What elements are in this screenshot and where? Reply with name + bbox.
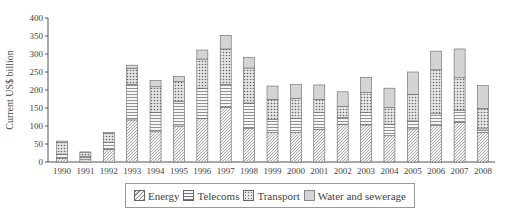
bar-segment-water-and-sewerage <box>80 152 91 153</box>
bar-segment-telecoms <box>103 142 114 149</box>
x-tick-label: 2005 <box>404 166 423 176</box>
water-swatch-icon <box>304 190 315 201</box>
bar-segment-transport <box>431 70 442 114</box>
bar-segment-energy <box>267 132 278 162</box>
legend-label: Telecoms <box>197 190 239 202</box>
bar-segment-water-and-sewerage <box>197 50 208 59</box>
bar-2000 <box>290 85 301 162</box>
bar-1997 <box>220 35 231 162</box>
bar-segment-energy <box>454 122 465 162</box>
y-tick-label: 250 <box>30 67 44 77</box>
bar-segment-energy <box>173 126 184 162</box>
bar-segment-water-and-sewerage <box>290 85 301 99</box>
bar-segment-transport <box>361 93 372 113</box>
bar-segment-water-and-sewerage <box>384 88 395 107</box>
bar-segment-water-and-sewerage <box>337 92 348 107</box>
bar-segment-telecoms <box>80 156 91 159</box>
bar-segment-transport <box>337 107 348 118</box>
bar-segment-water-and-sewerage <box>220 35 231 49</box>
x-tick-label: 2001 <box>310 166 328 176</box>
x-tick-label: 2003 <box>357 166 376 176</box>
bar-segment-energy <box>478 132 489 162</box>
bar-segment-telecoms <box>361 113 372 125</box>
bar-2006 <box>431 51 442 162</box>
bar-1998 <box>244 57 255 162</box>
y-tick-label: 150 <box>30 103 44 113</box>
bar-1990 <box>57 141 68 162</box>
bar-segment-transport <box>127 68 138 84</box>
bar-1995 <box>173 77 184 162</box>
x-tick-label: 2004 <box>380 166 399 176</box>
y-tick-label: 200 <box>30 85 44 95</box>
bar-segment-water-and-sewerage <box>127 65 138 68</box>
bar-segment-water-and-sewerage <box>431 51 442 70</box>
legend-label: Water and sewerage <box>318 190 406 202</box>
bar-segment-telecoms <box>337 118 348 124</box>
bar-2002 <box>337 92 348 162</box>
bar-segment-telecoms <box>197 88 208 118</box>
bar-segment-telecoms <box>173 102 184 126</box>
axes: 0501001502002503003504001990199119921993… <box>30 13 496 176</box>
bar-2001 <box>314 85 325 162</box>
bar-segment-transport <box>314 99 325 112</box>
bar-segment-energy <box>220 107 231 162</box>
x-tick-label: 2007 <box>451 166 470 176</box>
bar-segment-energy <box>80 159 91 162</box>
bar-segment-transport <box>103 134 114 143</box>
x-tick-label: 2000 <box>287 166 306 176</box>
bar-segment-telecoms <box>384 124 395 136</box>
bar-segment-transport <box>80 153 91 157</box>
transport-swatch-icon <box>243 190 254 201</box>
bar-segment-telecoms <box>478 129 489 133</box>
y-tick-label: 350 <box>30 31 44 41</box>
bar-segment-transport <box>197 59 208 88</box>
bar-segment-water-and-sewerage <box>314 85 325 99</box>
bar-segment-transport <box>384 108 395 125</box>
bar-segment-energy <box>57 158 68 162</box>
y-tick-label: 400 <box>30 13 44 23</box>
bar-segment-energy <box>197 118 208 162</box>
x-tick-label: 2002 <box>334 166 352 176</box>
bar-segment-telecoms <box>314 113 325 130</box>
y-tick-label: 50 <box>34 139 44 149</box>
bar-segment-transport <box>478 108 489 129</box>
bar-segment-transport <box>57 143 68 155</box>
bar-segment-water-and-sewerage <box>173 77 184 82</box>
bar-1996 <box>197 50 208 162</box>
legend-label: Energy <box>148 190 180 202</box>
bar-2004 <box>384 88 395 162</box>
bar-2005 <box>407 72 418 162</box>
bar-segment-telecoms <box>57 154 68 158</box>
bar-segment-energy <box>103 149 114 162</box>
bar-segment-transport <box>454 78 465 110</box>
x-tick-label: 1999 <box>264 166 283 176</box>
bar-segment-transport <box>173 82 184 102</box>
bar-segment-energy <box>337 124 348 162</box>
legend: EnergyTelecomsTransportWater and sewerag… <box>125 183 415 208</box>
bar-1993 <box>127 65 138 162</box>
legend-item-telecoms: Telecoms <box>183 190 239 202</box>
bar-segment-water-and-sewerage <box>103 132 114 133</box>
x-tick-label: 1994 <box>147 166 166 176</box>
bar-segment-energy <box>127 120 138 162</box>
bar-segment-water-and-sewerage <box>150 81 161 87</box>
bar-segment-transport <box>244 68 255 103</box>
bar-segment-water-and-sewerage <box>244 57 255 68</box>
bar-segment-energy <box>150 132 161 162</box>
x-tick-label: 1991 <box>76 166 94 176</box>
x-tick-label: 2006 <box>427 166 446 176</box>
bar-1991 <box>80 152 91 162</box>
y-tick-label: 300 <box>30 49 44 59</box>
bar-segment-water-and-sewerage <box>267 86 278 99</box>
bar-segment-water-and-sewerage <box>478 86 489 109</box>
bar-2008 <box>478 86 489 162</box>
bar-segment-transport <box>220 49 231 85</box>
energy-swatch-icon <box>134 190 145 201</box>
x-tick-label: 1993 <box>123 166 142 176</box>
x-tick-label: 1997 <box>217 166 236 176</box>
bar-segment-telecoms <box>431 114 442 126</box>
y-axis-title: Current US$ billion <box>4 50 15 129</box>
bar-segment-energy <box>431 126 442 162</box>
bar-segment-energy <box>314 129 325 162</box>
bar-2003 <box>361 77 372 162</box>
